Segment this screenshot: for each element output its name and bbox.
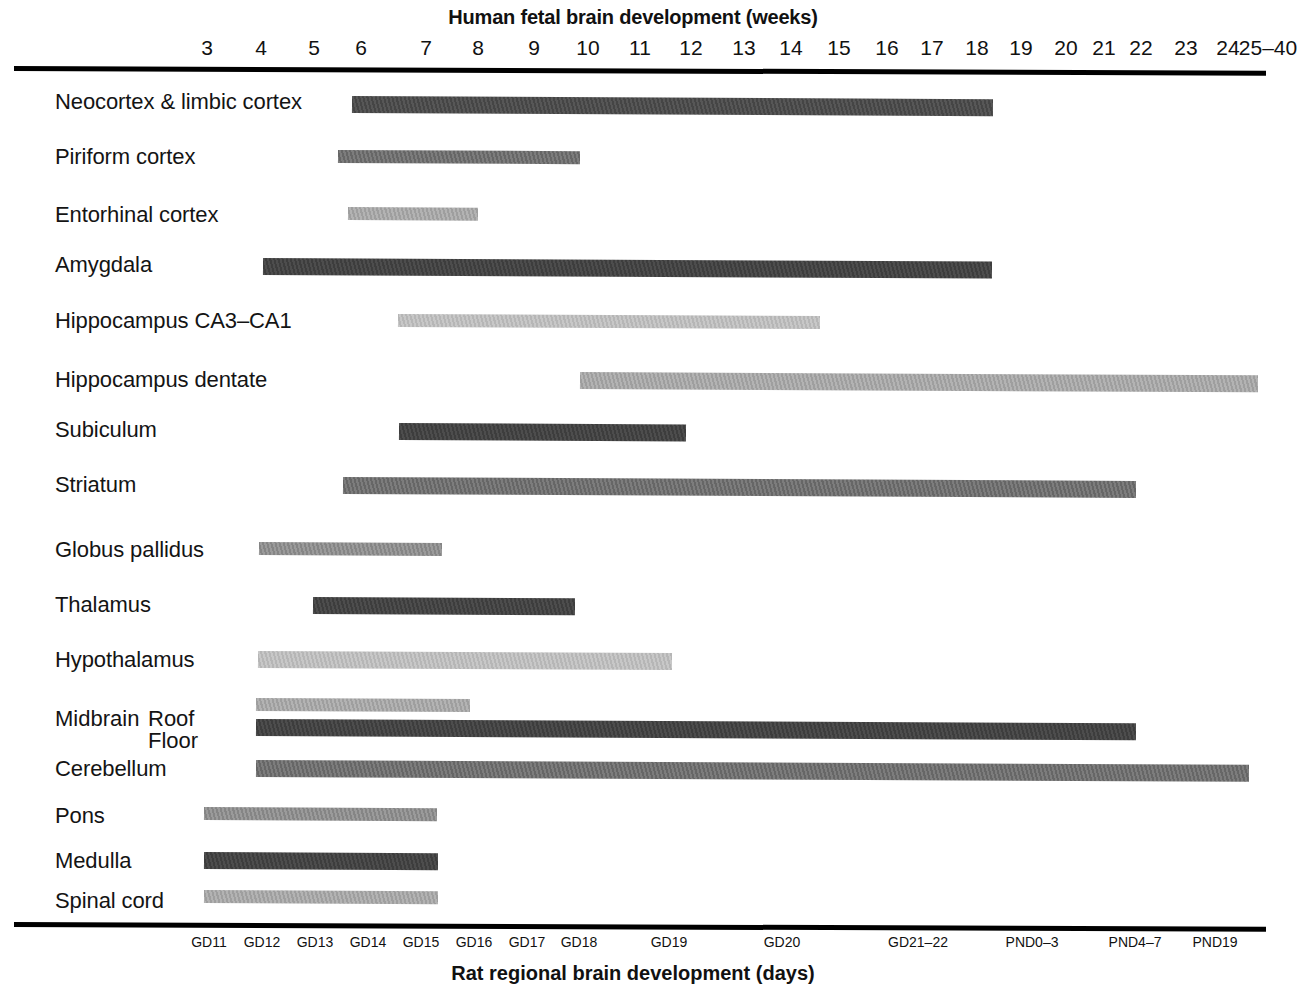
row-sublabel: Floor xyxy=(148,728,198,754)
row-label: Midbrain xyxy=(55,706,139,732)
bottom-axis-tick-label: GD19 xyxy=(651,934,688,950)
row-label: Cerebellum xyxy=(55,756,167,782)
timeline-bar xyxy=(580,372,1258,392)
bottom-axis-tick-label: GD20 xyxy=(764,934,801,950)
bottom-axis-tick-label: GD18 xyxy=(561,934,598,950)
timeline-bar xyxy=(348,207,478,221)
timeline-bar xyxy=(338,150,580,164)
row-label: Entorhinal cortex xyxy=(55,202,218,228)
timeline-bar xyxy=(256,698,470,712)
bottom-axis-tick-label: PND4–7 xyxy=(1109,934,1162,950)
row-label: Pons xyxy=(55,803,105,829)
row-label: Spinal cord xyxy=(55,888,164,914)
row-label: Globus pallidus xyxy=(55,537,204,563)
timeline-bar xyxy=(352,96,993,116)
timeline-bar xyxy=(398,314,820,329)
row-label: Medulla xyxy=(55,848,131,874)
row-label: Hippocampus dentate xyxy=(55,367,267,393)
bottom-axis-tick-label: GD13 xyxy=(297,934,334,950)
bottom-axis-tick-label: GD14 xyxy=(350,934,387,950)
timeline-bar xyxy=(313,597,575,615)
timeline-bar xyxy=(258,651,672,670)
bottom-axis-tick-band: GD11GD12GD13GD14GD15GD16GD17GD18GD19GD20… xyxy=(0,934,1266,958)
row-label: Subiculum xyxy=(55,417,157,443)
bottom-axis-tick-label: GD12 xyxy=(244,934,281,950)
bottom-axis-tick-label: GD17 xyxy=(509,934,546,950)
timeline-bar xyxy=(343,477,1136,498)
timeline-bar xyxy=(256,719,1136,740)
row-label: Thalamus xyxy=(55,592,151,618)
row-label: Hypothalamus xyxy=(55,647,194,673)
timeline-bar xyxy=(263,258,992,279)
row-label: Hippocampus CA3–CA1 xyxy=(55,308,292,334)
bottom-axis-tick-label: GD15 xyxy=(403,934,440,950)
row-label: Striatum xyxy=(55,472,136,498)
timeline-bar xyxy=(204,807,437,821)
row-label: Amygdala xyxy=(55,252,152,278)
bottom-axis-tick-label: GD16 xyxy=(456,934,493,950)
timeline-bar xyxy=(256,760,1249,782)
bottom-axis-title: Rat regional brain development (days) xyxy=(0,962,1266,984)
row-label: Piriform cortex xyxy=(55,144,195,170)
timeline-bar xyxy=(399,423,686,441)
bottom-axis-tick-label: GD21–22 xyxy=(888,934,948,950)
timeline-bar xyxy=(204,852,438,870)
row-label: Neocortex & limbic cortex xyxy=(55,89,302,115)
timeline-bar xyxy=(204,890,438,904)
bottom-axis-tick-label: PND19 xyxy=(1192,934,1237,950)
bottom-axis-tick-label: GD11 xyxy=(191,934,227,950)
bottom-axis-tick-label: PND0–3 xyxy=(1006,934,1059,950)
timeline-bar xyxy=(259,542,442,556)
